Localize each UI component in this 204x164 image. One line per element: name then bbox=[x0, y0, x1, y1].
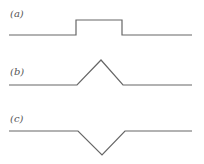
waveform-a-rectangular-pulse bbox=[9, 20, 192, 35]
waveforms bbox=[0, 0, 204, 164]
waveform-c-inverted-triangle bbox=[9, 131, 192, 155]
waveform-b-triangular-peak bbox=[9, 60, 192, 85]
